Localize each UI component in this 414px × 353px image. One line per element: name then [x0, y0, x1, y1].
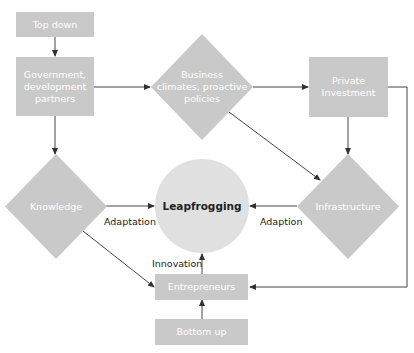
node-bottom-up: Bottom up: [155, 319, 248, 345]
node-infrastructure: Infrastructure: [297, 154, 399, 259]
node-bottom-up-label: Bottom up: [177, 326, 227, 338]
node-private-label-line1: Private: [332, 75, 365, 87]
node-top-down-label: Top down: [33, 19, 78, 31]
node-top-down: Top down: [16, 12, 94, 37]
node-business-label-line2: climates, proactive: [157, 81, 248, 93]
node-business-label-line3: policies: [157, 93, 248, 105]
node-infrastructure-label: Infrastructure: [315, 201, 380, 213]
edge-label-innovation: Innovation: [152, 258, 202, 269]
node-government-label-line3: partners: [35, 93, 75, 105]
edge-label-adaptation: Adaptation: [104, 216, 156, 227]
leapfrogging-flow-diagram: Top down Government, development partner…: [0, 0, 414, 353]
node-private-label-line2: Investment: [322, 87, 376, 99]
node-business-label: Business climates, proactive policies: [157, 69, 248, 105]
node-entrepreneurs-label: Entrepreneurs: [168, 281, 236, 293]
edge-label-adaption: Adaption: [260, 216, 302, 227]
node-government: Government, development partners: [16, 57, 94, 116]
node-government-label-line2: development: [24, 81, 87, 93]
node-business: Business climates, proactive policies: [151, 34, 253, 140]
node-government-label-line1: Government,: [24, 69, 86, 81]
node-knowledge-label: Knowledge: [30, 201, 82, 213]
node-private-investment: Private Investment: [309, 57, 388, 117]
node-business-label-line1: Business: [157, 69, 248, 81]
node-leapfrogging: Leapfrogging: [155, 159, 249, 253]
node-leapfrogging-label: Leapfrogging: [163, 200, 242, 212]
node-entrepreneurs: Entrepreneurs: [155, 274, 248, 300]
node-knowledge: Knowledge: [5, 154, 107, 259]
